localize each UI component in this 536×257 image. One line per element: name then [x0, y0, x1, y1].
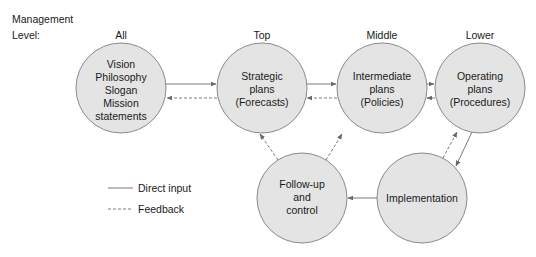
feedback-followup-to-strategic [260, 134, 278, 160]
node-line: plans [337, 83, 427, 96]
node-line: and [257, 191, 347, 204]
node-line: plans [217, 83, 307, 96]
node-intermediate-text: Intermediate plans (Policies) [337, 70, 427, 109]
level-all: All [81, 29, 161, 41]
node-line: (Procedures) [435, 96, 525, 109]
node-line: (Policies) [337, 96, 427, 109]
node-line: control [257, 204, 347, 217]
node-implementation-text: Implementation [377, 192, 467, 205]
feedback-implementation-to-operating [443, 132, 457, 158]
node-line: Mission [76, 97, 166, 110]
level-lower: Lower [440, 29, 520, 41]
level-top: Top [222, 29, 302, 41]
node-line: statements [76, 110, 166, 123]
node-line: Slogan [76, 84, 166, 97]
node-line: Operating [435, 70, 525, 83]
level-heading: Level: [12, 29, 40, 41]
node-followup-text: Follow-up and control [257, 178, 347, 217]
legend-direct-label: Direct input [138, 182, 191, 194]
node-vision-text: Vision Philosophy Slogan Mission stateme… [76, 58, 166, 123]
node-line: plans [435, 83, 525, 96]
feedback-followup-to-intermediate [326, 134, 342, 160]
node-line: Intermediate [337, 70, 427, 83]
node-line: Implementation [377, 192, 467, 205]
management-heading: Management [12, 13, 73, 25]
node-strategic-text: Strategic plans (Forecasts) [217, 70, 307, 109]
node-line: Philosophy [76, 71, 166, 84]
edge-operating-to-implementation [456, 132, 472, 166]
node-line: (Forecasts) [217, 96, 307, 109]
node-operating-text: Operating plans (Procedures) [435, 70, 525, 109]
legend-feedback-label: Feedback [138, 203, 184, 215]
node-line: Follow-up [257, 178, 347, 191]
node-line: Vision [76, 58, 166, 71]
node-line: Strategic [217, 70, 307, 83]
level-middle: Middle [342, 29, 422, 41]
